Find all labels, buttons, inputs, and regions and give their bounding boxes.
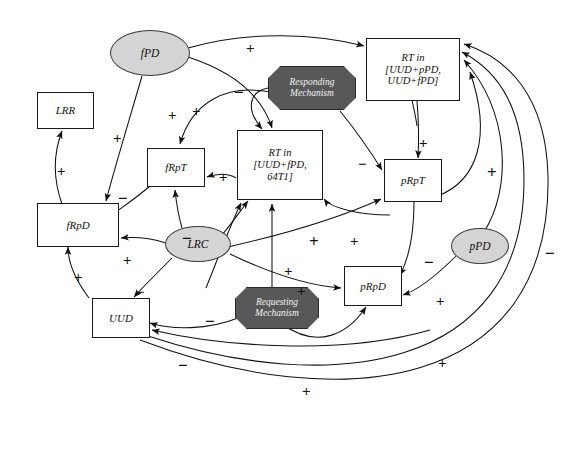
edge-sign-lrc-prpd-hi: + [350,234,359,249]
edge-sign-lrc-lower: − [205,313,215,330]
node-requesting-mechanism-label-2: Mechanism [255,308,299,319]
edge-sign-lrc-prpd: + [297,284,306,299]
node-rt-mid[interactable]: RT in [UUD+fPD, 64T1] [237,130,323,200]
node-rt-mid-label-3: 64T1] [267,171,293,183]
edge-sign-uud-frpd: + [74,270,83,285]
edge-sign-lrc-frpd: + [123,253,132,268]
edge-prpt-rtmid [324,199,390,215]
edge-sign-rttop-prpt: + [419,136,428,151]
node-frpt-label: fRpT [165,161,186,173]
node-frpd[interactable]: fRpD [37,203,119,247]
edge-sign-lrc-uud: − [136,285,145,300]
edge-sign-prpt-rtmid: + [309,233,319,250]
edge-sign-rtmid-frpt: + [219,170,228,185]
edge-sign-frpd-lrr: + [57,164,66,179]
node-fpd-label: fPD [141,47,160,60]
node-requesting-mechanism-label-1: Requesting [256,297,298,308]
node-prpt[interactable]: pRpT [384,159,442,202]
node-prpd-label: pRpD [360,280,386,292]
edge-sign-respond-prpt: − [358,157,367,172]
edge-prpt-prpd [400,202,414,275]
node-frpd-label: fRpD [66,219,89,231]
node-ppd[interactable]: pPD [451,228,509,264]
edge-tail-rttop-down [412,100,417,126]
edge-sign-loop-prpd: + [438,356,447,371]
node-fpd[interactable]: fPD [110,30,190,76]
node-prpt-label: pRpT [401,174,425,186]
node-rt-top[interactable]: RT in [UUD+pPD, UUD+fPD] [366,38,460,101]
node-requesting-mechanism[interactable]: Requesting Mechanism [235,287,319,329]
node-uud-label: UUD [109,312,133,324]
edge-sign-lrc-frpt: − [182,230,192,247]
node-responding-mechanism-label-1: Responding [290,77,335,88]
edge-fpd-rttop [188,36,364,48]
edge-sign-fpd-rtmid: − [234,84,244,101]
node-responding-mechanism[interactable]: Responding Mechanism [268,66,356,110]
edge-sign-request-uud: − [178,357,188,374]
edge-sign-prpt-prpd: − [424,254,434,271]
node-uud[interactable]: UUD [92,298,150,338]
node-rt-mid-label-1: RT in [269,147,292,159]
node-rt-top-label-1: RT in [402,52,425,64]
node-responding-mechanism-label-2: Mechanism [290,88,334,99]
edge-sign-fpd-frpd: + [113,131,122,146]
node-lrr[interactable]: LRR [37,92,94,129]
edge-sign-loop-right-lower: − [545,245,555,262]
edge-lrc-frpt [175,190,182,228]
edge-lrc-frpd [121,238,166,243]
edge-sign-arc-frpt: + [192,104,201,119]
edge-sign-frpt-frpd: − [118,190,128,207]
legend: Uncontrollable Source Factors Controllab… [0,384,567,456]
edge-sign-loop-uud: + [302,384,311,399]
edge-longarc-uud [152,330,430,346]
edge-request-uud [150,318,238,328]
edge-sign-fpd-rttop: + [246,41,255,56]
node-rt-mid-label-2: [UUD+fPD, [253,159,306,171]
node-lrr-label: LRR [56,104,76,116]
edge-sign-request-rtmid: + [284,264,293,279]
node-rt-top-label-2: [UUD+pPD, [385,64,441,76]
node-rt-top-label-3: UUD+fPD] [388,75,439,87]
node-frpt[interactable]: fRpT [147,148,205,187]
edge-fpd-frpd [106,76,142,201]
edge-sign-respond-arc: + [168,108,177,123]
diagram-canvas: fPD LRR Responding Mechanism RT in [UUD+… [0,0,567,463]
node-prpd[interactable]: pRpD [344,266,402,306]
edge-respond-rtmid [251,88,268,129]
edge-loop-ppd-rttop [464,60,502,232]
edge-sign-loop-right-upper: + [487,164,497,181]
node-ppd-label: pPD [469,240,490,253]
edge-sign-ppd-prpd: + [436,294,445,309]
node-lrc[interactable]: LRC [165,226,231,262]
